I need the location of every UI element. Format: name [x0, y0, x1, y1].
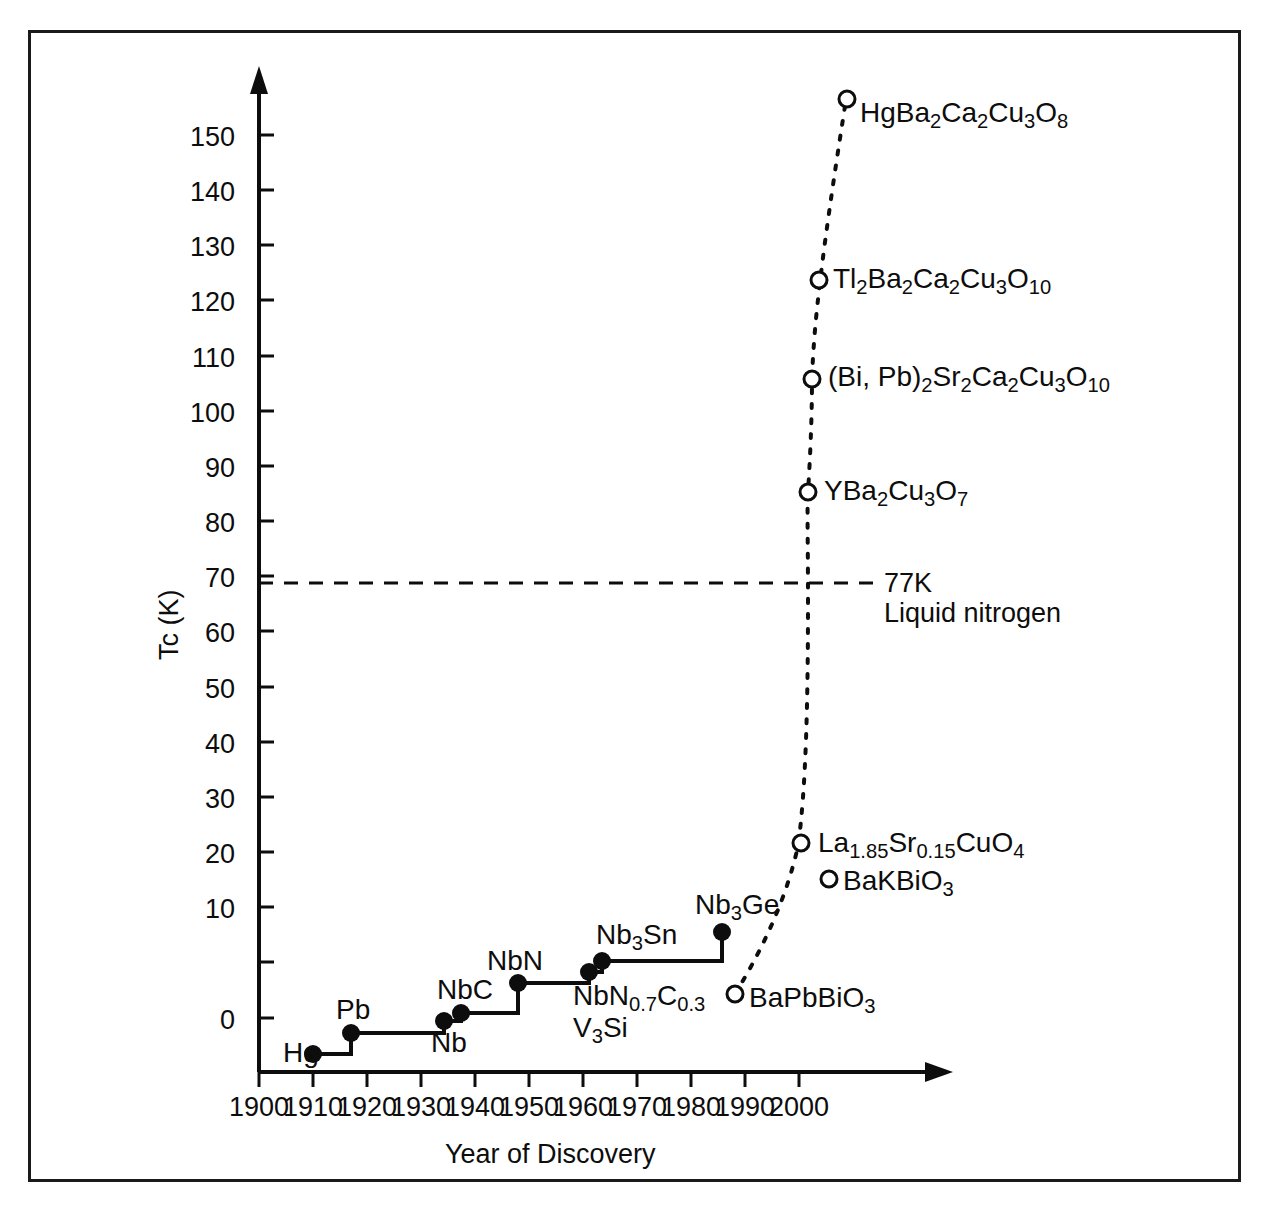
x-axis: [259, 1062, 953, 1087]
y-tick-label-130: 130: [150, 234, 235, 261]
label-Nb3Sn: Nb3Sn: [596, 920, 677, 949]
marker-BaKBiO3: [821, 871, 837, 887]
marker-Pb: [342, 1024, 360, 1042]
y-tick-label-100: 100: [150, 400, 235, 427]
label-NbC: NbC: [437, 975, 493, 1004]
marker-BiPb2Sr2Ca2Cu3O10: [804, 371, 820, 387]
x-axis-ticks: [259, 1072, 799, 1087]
marker-BaPbBiO3: [727, 986, 743, 1002]
label-Pb: Pb: [336, 995, 370, 1024]
marker-YBa2Cu3O7: [800, 484, 816, 500]
label-Tl2Ba2Ca2Cu3O10: Tl2Ba2Ca2Cu3O10: [833, 264, 1051, 293]
label-La185Sr015CuO4: La1.85Sr0.15CuO4: [818, 828, 1024, 857]
y-tick-label-90: 90: [150, 455, 235, 482]
y-tick-label-70: 70: [150, 565, 235, 592]
label-Nb3Ge: Nb3Ge: [695, 890, 779, 919]
label-HgBa2Ca2Cu3O8: HgBa2Ca2Cu3O8: [860, 98, 1068, 127]
label-Hg: Hg: [283, 1038, 319, 1067]
x-tick-label-2000: 2000: [744, 1094, 854, 1121]
y-tick-label-80: 80: [150, 510, 235, 537]
hightc-dotted-curve: [735, 100, 846, 994]
label-BaPbBiO3: BaPbBiO3: [749, 983, 875, 1012]
label-NbN: NbN: [487, 946, 543, 975]
liquid-nitrogen-value: 77K: [884, 568, 1061, 598]
y-tick-label-110: 110: [150, 345, 235, 372]
marker-Nb3Sn: [593, 952, 611, 970]
label-Nb: Nb: [431, 1028, 467, 1057]
marker-Nb3Ge: [713, 923, 731, 941]
y-axis: [250, 66, 274, 1072]
y-tick-label-0: 0: [150, 1007, 235, 1034]
label-YBa2Cu3O7: YBa2Cu3O7: [824, 476, 968, 505]
marker-Tl2Ba2Ca2Cu3O10: [811, 272, 827, 288]
y-tick-label-50: 50: [150, 676, 235, 703]
y-tick-label-150: 150: [150, 124, 235, 151]
marker-La185Sr015CuO4: [793, 835, 809, 851]
liquid-nitrogen-annotation: 77K Liquid nitrogen: [884, 568, 1061, 628]
y-axis-ticks: [259, 135, 274, 1072]
y-tick-label-30: 30: [150, 786, 235, 813]
y-tick-label-140: 140: [150, 179, 235, 206]
chart-page: 150 140 130 120 110 100 90 80 70 60 50 4…: [0, 0, 1272, 1214]
y-tick-label-40: 40: [150, 731, 235, 758]
label-BiPb2Sr2Ca2Cu3O10: (Bi, Pb)2Sr2Ca2Cu3O10: [828, 362, 1110, 391]
label-V3Si: V3Si: [573, 1013, 628, 1042]
y-tick-label-20: 20: [150, 841, 235, 868]
marker-NbN: [509, 974, 527, 992]
label-BaKBiO3: BaKBiO3: [843, 866, 954, 895]
x-axis-title: Year of Discovery: [445, 1139, 656, 1170]
y-tick-label-10: 10: [150, 896, 235, 923]
y-tick-label-120: 120: [150, 289, 235, 316]
marker-HgBa2Ca2Cu3O8: [839, 91, 855, 107]
label-NbN07C03: NbN0.7C0.3: [573, 981, 705, 1010]
hightc-markers: [727, 91, 855, 1002]
y-axis-title: Tc (K): [154, 590, 185, 661]
liquid-nitrogen-caption: Liquid nitrogen: [884, 598, 1061, 628]
marker-NbC: [452, 1004, 470, 1022]
